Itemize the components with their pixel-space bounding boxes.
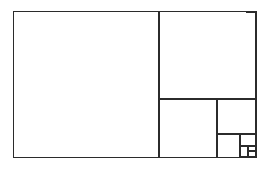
square-1 bbox=[14, 12, 159, 157]
square-6 bbox=[240, 134, 252, 146]
square-2 bbox=[159, 12, 246, 99]
diagram-canvas bbox=[0, 0, 267, 172]
square-4 bbox=[217, 99, 252, 134]
square-7 bbox=[240, 146, 248, 154]
squared-rectangle-figure bbox=[0, 0, 267, 172]
square-5 bbox=[217, 134, 240, 157]
square-3 bbox=[159, 99, 217, 157]
